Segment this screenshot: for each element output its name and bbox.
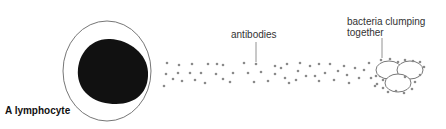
bacteria-label-line1: bacteria clumping [347,16,425,27]
antibodies-label: antibodies [231,29,277,40]
bacterium [385,74,411,92]
lymphocyte-cell [63,21,151,121]
antibody-dots [163,62,382,88]
lymphocyte-label: A lymphocyte [5,105,70,116]
bacteria-label-line2: together [347,27,384,38]
